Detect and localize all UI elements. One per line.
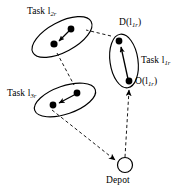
node-task3-pickup xyxy=(74,90,81,97)
task3-edge xyxy=(59,94,76,103)
task2-ellipse xyxy=(26,8,98,65)
route-edges xyxy=(52,30,129,160)
node-task1-origin xyxy=(126,78,133,85)
route-task3-to-depot xyxy=(52,110,115,160)
task2-edge xyxy=(59,30,70,41)
node-task2-pickup xyxy=(68,26,75,33)
node-task2-delivery xyxy=(50,40,57,47)
destination-label: D(l1r) xyxy=(119,18,141,28)
depot-label: Depot xyxy=(106,176,130,186)
route-task2-to-task3 xyxy=(57,53,74,85)
node-task1-destination xyxy=(116,38,123,45)
node-task3-delivery xyxy=(50,102,57,109)
route-diagram: Task l2r Task l3r Task l1r D(l1r) O(l1r)… xyxy=(0,0,188,191)
origin-label: O(l1r) xyxy=(135,77,157,87)
route-depot-to-origin xyxy=(125,90,129,157)
depot-node xyxy=(118,158,133,173)
task-3-label: Task l3r xyxy=(7,89,37,99)
task-1-label: Task l1r xyxy=(141,56,171,66)
task-2-label: Task l2r xyxy=(27,7,57,17)
task1-edge xyxy=(121,47,128,79)
